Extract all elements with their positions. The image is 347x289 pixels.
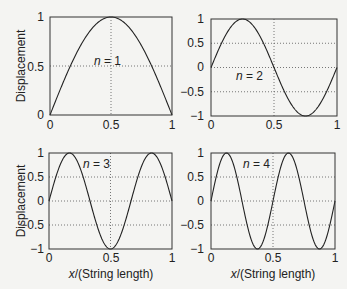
ytick-0: 0 [37, 108, 44, 122]
ytick-0: 0 [37, 194, 44, 208]
ytick-neg1: −1 [190, 242, 204, 256]
mode-label-n2: n = 2 [236, 69, 263, 83]
xtick-0.5: 0.5 [103, 118, 120, 132]
figure-standing-wave-modes: 1 0.5 0 0 0.5 1 n = 1 Displacement 1 0.5… [0, 0, 347, 289]
xtick-0.5: 0.5 [266, 118, 283, 132]
xtick-0: 0 [208, 251, 215, 265]
ytick-0.5: 0.5 [187, 36, 204, 50]
ytick-0.5: 0.5 [187, 170, 204, 184]
x-axis-label: x/(String length) [230, 267, 316, 281]
plot-area-4 [211, 153, 335, 249]
panel-n1: 1 0.5 0 0 0.5 1 n = 1 Displacement [14, 10, 176, 132]
xtick-0: 0 [47, 118, 54, 132]
y-axis-label: Displacement [14, 29, 28, 102]
xtick-1: 1 [169, 118, 176, 132]
xtick-0.5: 0.5 [103, 251, 120, 265]
ytick-neg1: −1 [190, 109, 204, 123]
x-axis-label: x/(String length) [68, 267, 154, 281]
xtick-1: 1 [169, 251, 176, 265]
xtick-1: 1 [334, 118, 341, 132]
panel-n3: 1 0.5 0 −0.5 −1 0 0.5 1 n = 3 Displaceme… [14, 146, 176, 281]
mode-label-n1: n = 1 [94, 54, 121, 68]
y-axis-label: Displacement [14, 164, 28, 237]
xtick-1: 1 [332, 251, 339, 265]
xtick-0: 0 [46, 251, 53, 265]
ytick-1: 1 [37, 146, 44, 160]
mode-label-n3: n = 3 [83, 157, 110, 171]
ytick-0: 0 [197, 194, 204, 208]
ytick-0: 0 [197, 60, 204, 74]
xtick-0.5: 0.5 [265, 251, 282, 265]
ytick-1: 1 [197, 146, 204, 160]
ytick-1: 1 [37, 10, 44, 24]
ytick-neg1: −1 [30, 242, 44, 256]
ytick-0.5: 0.5 [27, 170, 44, 184]
panel-n2: 1 0.5 0 −0.5 −1 0 0.5 1 n = 2 [180, 12, 340, 132]
mode-label-n4: n = 4 [243, 157, 270, 171]
panel-n4: 1 0.5 0 −0.5 −1 0 0.5 1 n = 4 x/(String … [180, 146, 338, 281]
ytick-0.5: 0.5 [27, 60, 44, 74]
plot-area-3 [49, 153, 172, 249]
ytick-neg0.5: −0.5 [180, 85, 204, 99]
plot-area-2 [211, 19, 337, 116]
xtick-0: 0 [208, 118, 215, 132]
ytick-1: 1 [197, 12, 204, 26]
ytick-neg0.5: −0.5 [180, 218, 204, 232]
